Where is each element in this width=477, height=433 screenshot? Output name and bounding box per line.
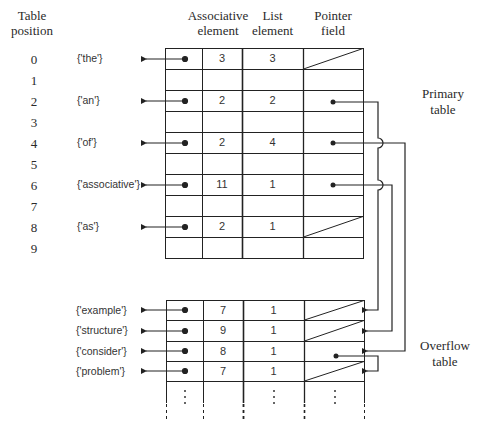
continuation-dots: [184, 390, 336, 404]
primary-table-grid: [165, 48, 364, 259]
pointer-dots: [331, 100, 339, 359]
pointer-connectors: [333, 102, 405, 371]
diagram-lines: [0, 0, 477, 433]
primary-set-arrows: [146, 57, 188, 230]
